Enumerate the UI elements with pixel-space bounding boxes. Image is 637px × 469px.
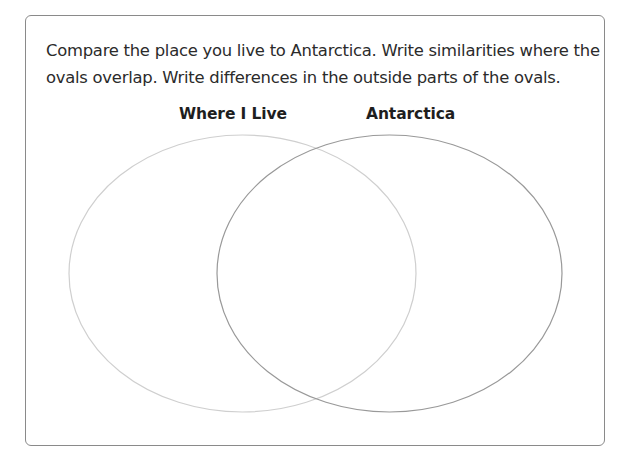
antarctica-oval[interactable] — [217, 135, 562, 412]
where-i-live-oval[interactable] — [69, 135, 416, 412]
venn-diagram — [0, 0, 637, 469]
